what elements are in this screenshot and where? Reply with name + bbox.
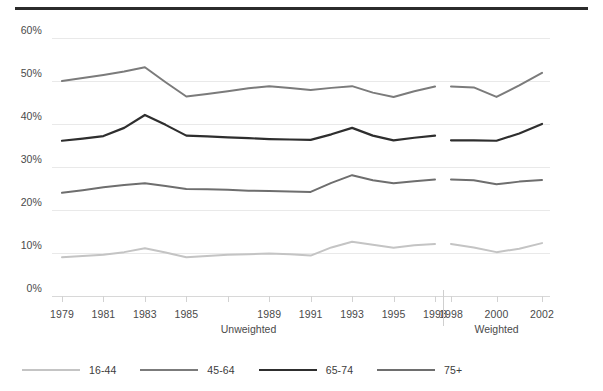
- y-axis-tick-label: 0%: [0, 282, 42, 294]
- x-axis-tick: [311, 296, 312, 302]
- series-line-weighted-75+: [451, 179, 542, 184]
- x-axis-tick: [103, 296, 104, 302]
- x-axis-tick-label: 1995: [382, 308, 406, 320]
- series-line-weighted-16-44: [451, 243, 542, 252]
- legend-item-75+[interactable]: 75+: [377, 364, 462, 376]
- x-axis-tick-label: 1979: [50, 308, 74, 320]
- x-axis-tick: [435, 296, 436, 302]
- legend-label: 65-74: [326, 364, 353, 376]
- x-axis-tick-label: 1985: [174, 308, 198, 320]
- x-axis-tick-label: 1993: [340, 308, 364, 320]
- x-axis-tick: [228, 296, 229, 302]
- x-axis-tick-label: 1981: [92, 308, 116, 320]
- legend-label: 16-44: [89, 364, 116, 376]
- series-line-weighted-45-64: [451, 73, 542, 97]
- legend-item-45-64[interactable]: 45-64: [140, 364, 234, 376]
- y-axis-tick-label: 40%: [0, 110, 42, 122]
- series-line-16-44: [62, 242, 435, 257]
- group-divider: [443, 290, 444, 326]
- x-axis-tick-label: 1983: [133, 308, 157, 320]
- x-axis-tick-label: 1991: [299, 308, 323, 320]
- x-axis-tick-label: 2002: [530, 308, 554, 320]
- group-label-unweighted: Unweighted: [221, 323, 276, 335]
- y-axis-tick-label: 60%: [0, 24, 42, 36]
- y-axis-tick-label: 50%: [0, 67, 42, 79]
- legend-item-65-74[interactable]: 65-74: [259, 364, 353, 376]
- legend-swatch-icon: [22, 369, 80, 371]
- series-line-45-64: [62, 67, 435, 97]
- legend-swatch-icon: [377, 369, 435, 371]
- series-line-75+: [62, 175, 435, 193]
- y-axis-tick-label: 10%: [0, 239, 42, 251]
- top-divider-rule: [15, 7, 588, 10]
- y-axis-tick-label: 20%: [0, 196, 42, 208]
- legend-label: 75+: [444, 364, 462, 376]
- x-axis-tick: [269, 296, 270, 302]
- x-axis-tick: [62, 296, 63, 302]
- x-axis-tick: [451, 296, 452, 302]
- legend-swatch-icon: [140, 369, 198, 371]
- chart-figure: 0%10%20%30%40%50%60% 1979198119831985198…: [0, 0, 603, 391]
- x-axis-tick: [145, 296, 146, 302]
- series-lines: [52, 38, 550, 296]
- x-axis-tick: [186, 296, 187, 302]
- series-line-65-74: [62, 115, 435, 141]
- group-label-weighted: Weighted: [474, 323, 518, 335]
- x-axis-tick-label: 1989: [257, 308, 281, 320]
- x-axis-tick: [497, 296, 498, 302]
- plot-area: [52, 38, 550, 296]
- legend-label: 45-64: [207, 364, 234, 376]
- y-axis-tick-label: 30%: [0, 153, 42, 165]
- x-axis-tick: [352, 296, 353, 302]
- legend-swatch-icon: [259, 369, 317, 371]
- gridline-0%: [52, 296, 550, 297]
- x-axis-tick: [394, 296, 395, 302]
- legend-item-16-44[interactable]: 16-44: [22, 364, 116, 376]
- chart-legend: 16-4445-6465-7475+: [22, 358, 486, 382]
- series-line-weighted-65-74: [451, 124, 542, 141]
- x-axis-tick-label: 2000: [485, 308, 509, 320]
- x-axis-tick: [542, 296, 543, 302]
